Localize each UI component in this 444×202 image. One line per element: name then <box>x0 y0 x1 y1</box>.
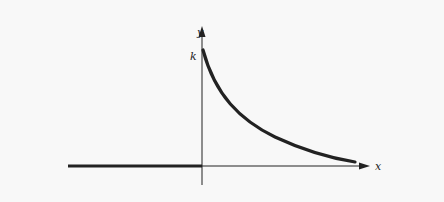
plot-canvas: y x k <box>0 0 444 202</box>
x-axis-label: x <box>375 160 382 173</box>
decay-curve <box>203 50 355 162</box>
y-axis-label: y <box>196 26 204 39</box>
decay-function-diagram: y x k <box>0 0 444 202</box>
x-axis-arrow-icon <box>359 163 370 170</box>
k-intercept-label: k <box>190 50 197 63</box>
